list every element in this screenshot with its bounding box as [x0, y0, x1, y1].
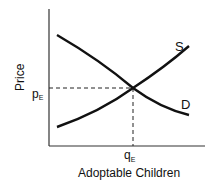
x-axis-label: Adoptable Children [78, 166, 180, 180]
demand-curve [57, 35, 189, 115]
y-axis-label: Price [13, 63, 27, 91]
supply-curve [57, 46, 189, 127]
pe-label: pE [32, 87, 44, 101]
qe-label: qE [124, 148, 136, 163]
demand-label: D [181, 97, 190, 112]
supply-demand-chart: S D Price pE qE Adoptable Children [0, 0, 216, 187]
supply-label: S [175, 39, 184, 54]
